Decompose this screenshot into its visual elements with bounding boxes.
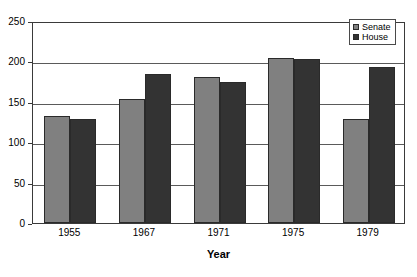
x-tick-label: 1971 bbox=[193, 227, 245, 239]
y-tick-label: 100 bbox=[8, 138, 25, 148]
chart-legend: SenateHouse bbox=[349, 19, 396, 45]
bar-group bbox=[268, 23, 320, 223]
bar-senate-1979 bbox=[343, 119, 369, 223]
bar-group bbox=[194, 23, 246, 223]
legend-swatch-icon bbox=[353, 24, 359, 30]
plot-area bbox=[32, 22, 405, 224]
bar-group bbox=[44, 23, 96, 223]
bar-senate-1975 bbox=[268, 58, 294, 223]
y-tick-label: 0 bbox=[19, 219, 25, 229]
bar-house-1975 bbox=[294, 59, 320, 223]
x-tick-label: 1975 bbox=[267, 227, 319, 239]
bar-house-1967 bbox=[145, 74, 171, 223]
bar-group bbox=[119, 23, 171, 223]
y-tick-label: 200 bbox=[8, 57, 25, 67]
bar-house-1971 bbox=[220, 82, 246, 223]
bar-chart: 050100150200250 19551967197119751979 Yea… bbox=[0, 0, 417, 277]
bar-senate-1967 bbox=[119, 99, 145, 223]
bar-group bbox=[343, 23, 395, 223]
x-tick-label: 1967 bbox=[118, 227, 170, 239]
bar-house-1979 bbox=[369, 67, 395, 223]
y-tick-mark bbox=[28, 224, 32, 225]
y-tick-label: 150 bbox=[8, 98, 25, 108]
y-axis: 050100150200250 bbox=[0, 0, 32, 277]
bar-house-1955 bbox=[70, 119, 96, 223]
y-tick-label: 250 bbox=[8, 17, 25, 27]
x-axis-title: Year bbox=[32, 248, 405, 260]
y-tick-label: 50 bbox=[14, 179, 25, 189]
legend-item: Senate bbox=[353, 22, 391, 32]
legend-item: House bbox=[353, 32, 391, 42]
x-axis: 19551967197119751979 bbox=[32, 227, 405, 243]
x-tick-label: 1979 bbox=[342, 227, 394, 239]
legend-label: House bbox=[362, 32, 388, 42]
legend-label: Senate bbox=[362, 22, 391, 32]
bar-senate-1955 bbox=[44, 116, 70, 223]
bars-layer bbox=[33, 23, 404, 223]
legend-swatch-icon bbox=[353, 34, 359, 40]
x-tick-label: 1955 bbox=[43, 227, 95, 239]
bar-senate-1971 bbox=[194, 77, 220, 223]
